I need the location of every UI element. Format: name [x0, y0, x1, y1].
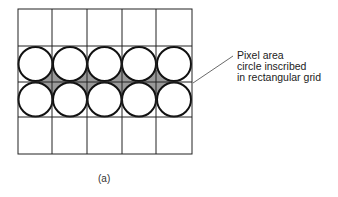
pixel-grid-diagram: [0, 0, 338, 197]
annotation-line-3: in rectangular grid: [237, 72, 321, 83]
grid-lines: [18, 9, 192, 154]
annotation-label: Pixel area circle inscribed in rectangul…: [237, 50, 321, 83]
figure-caption: (a): [98, 173, 110, 184]
leader-line: [193, 56, 233, 83]
